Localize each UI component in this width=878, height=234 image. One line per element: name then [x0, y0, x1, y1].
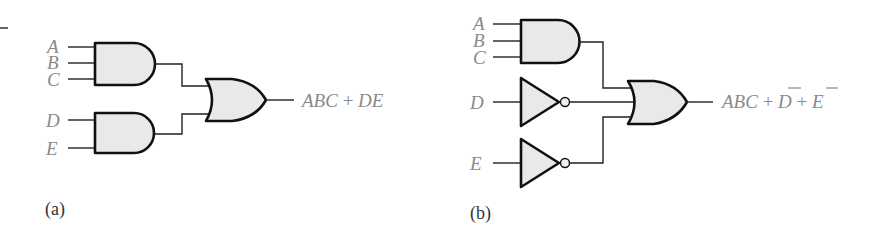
wire-de-to-or	[154, 114, 210, 134]
wire-note-to-or	[570, 117, 632, 163]
input-label-c: C	[47, 69, 60, 90]
input-label-e: E	[469, 153, 482, 174]
wire-abc-to-or	[579, 42, 632, 88]
input-label-d: D	[469, 92, 484, 113]
diagram-a: A B C D E ABC + DE (a)	[45, 36, 384, 220]
wire-abc-to-or	[155, 64, 210, 86]
input-label-c: C	[473, 47, 486, 68]
input-label-d: D	[45, 110, 60, 131]
diagram-b: A B C D E ABC + D + E (b)	[469, 13, 838, 224]
caption-a: (a)	[45, 199, 65, 220]
and-gate-abc	[521, 20, 580, 63]
caption-b: (b)	[470, 203, 491, 224]
inversion-bubble-e	[561, 159, 570, 168]
output-expression-b: ABC + D + E	[720, 91, 824, 112]
and-gate-abc	[95, 43, 155, 85]
not-gate-d	[521, 78, 559, 126]
or-gate	[628, 81, 687, 124]
and-gate-de	[95, 113, 154, 153]
not-gate-e	[521, 139, 559, 187]
or-gate	[206, 79, 266, 121]
input-label-e: E	[45, 138, 58, 159]
logic-diagrams: A B C D E ABC + DE (a) A B C D E	[0, 0, 878, 234]
output-expression-a: ABC + DE	[300, 90, 384, 111]
inversion-bubble-d	[561, 98, 570, 107]
